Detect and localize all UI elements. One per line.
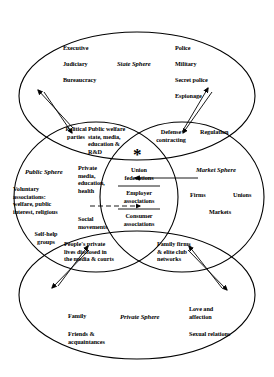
private-item-friends-acquaintances: Friends & acquaintances xyxy=(68,330,114,345)
state-item-espionage: Espionage xyxy=(175,92,202,100)
overlap-public-welfare-state: Public welfare state, media, education &… xyxy=(88,125,136,155)
four-spheres-venn-diagram: Executive Judiciary Bureaucracy State Sp… xyxy=(0,0,274,377)
overlap-private-media-education-health: Private media, education, health xyxy=(78,164,114,194)
market-item-firms: Firms xyxy=(190,191,206,199)
private-item-sexual-relations: Sexual relations xyxy=(189,330,230,338)
overlap-employer-associations: Employer associations xyxy=(117,189,161,204)
state-item-executive: Executive xyxy=(63,44,88,52)
state-item-bureaucracy: Bureaucracy xyxy=(63,76,96,84)
public-item-voluntary-associations: Voluntary associations: welfare, public … xyxy=(13,185,75,215)
public-item-social-movements: Social movements xyxy=(78,215,118,230)
market-sphere-label: Market Sphere xyxy=(196,166,236,174)
market-item-markets: Markets xyxy=(209,208,231,216)
state-sphere-label: State Sphere xyxy=(117,60,151,68)
state-item-military: Military xyxy=(175,60,197,68)
state-item-police: Police xyxy=(175,44,191,52)
state-item-judiciary: Judiciary xyxy=(63,60,88,68)
overlap-regulation: Regulation xyxy=(200,128,228,136)
overlap-peoples-private-lives: People's private lives disclosed in the … xyxy=(64,240,126,263)
public-item-self-help-groups: Self-help groups xyxy=(27,230,65,245)
state-sphere-ellipse xyxy=(19,32,255,160)
public-sphere-label: Public Sphere xyxy=(25,168,63,176)
private-sphere-label: Private Sphere xyxy=(120,313,159,321)
overlap-family-firms-elite-clubs: Family firms & elite club networks xyxy=(157,240,205,263)
state-item-secret-police: Secret police xyxy=(175,76,208,84)
market-item-unions: Unions xyxy=(233,191,251,199)
overlap-defense-contracting: Defense contracting xyxy=(151,128,191,143)
private-item-love-and-affection: Love and affection xyxy=(189,305,231,320)
center-intersection-asterisk: * xyxy=(133,150,142,160)
private-item-family: Family xyxy=(68,312,86,320)
overlap-union-federations: Union federations xyxy=(118,166,160,181)
overlap-consumer-associations: Consumer associations xyxy=(117,212,161,227)
private-sphere-ellipse xyxy=(19,231,255,359)
